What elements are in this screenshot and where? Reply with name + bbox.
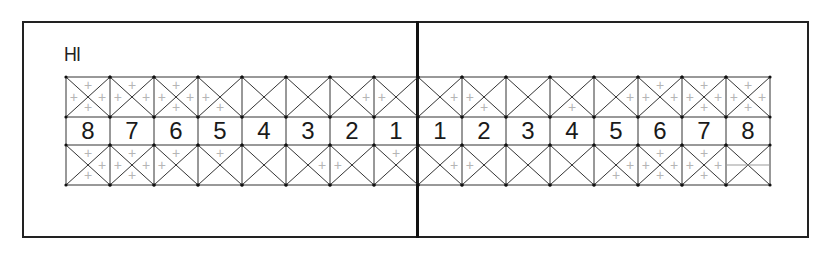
- surface-mark-b: +: [216, 99, 224, 115]
- surface-mark-r: +: [142, 157, 150, 173]
- surface-mark-r: +: [142, 89, 150, 105]
- surface-mark-b: +: [612, 167, 620, 183]
- surface-mark-r: +: [318, 157, 326, 173]
- surface-mark-t: +: [172, 145, 180, 161]
- tooth-left-8[interactable]: +++++++8: [64, 75, 111, 186]
- surface-mark-t: +: [128, 145, 136, 161]
- surface-mark-l: +: [642, 89, 650, 105]
- surface-mark-r: +: [186, 89, 194, 105]
- tooth-number: 4: [565, 117, 578, 144]
- surface-mark-t: +: [700, 77, 708, 93]
- surface-mark-l: +: [158, 89, 166, 105]
- surface-mark-t: +: [172, 77, 180, 93]
- surface-mark-l: +: [466, 157, 474, 173]
- surface-mark-l: +: [114, 89, 122, 105]
- surface-mark-r: +: [98, 89, 106, 105]
- tooth-left-5[interactable]: +++5: [196, 75, 243, 186]
- surface-mark-l: +: [686, 157, 694, 173]
- surface-mark-l: +: [202, 89, 210, 105]
- surface-mark-l: +: [334, 157, 342, 173]
- tooth-left-6[interactable]: ++++++6: [152, 75, 199, 186]
- tooth-left-1[interactable]: ++1: [372, 75, 419, 186]
- surface-mark-t: +: [700, 145, 708, 161]
- surface-mark-b: +: [128, 167, 136, 183]
- surface-mark-t: +: [744, 77, 752, 93]
- tooth-number: 6: [653, 117, 666, 144]
- tooth-number: 7: [125, 117, 138, 144]
- tooth-left-4[interactable]: 4: [240, 75, 287, 186]
- surface-mark-b: +: [480, 99, 488, 115]
- surface-mark-r: +: [450, 89, 458, 105]
- tooth-left-3[interactable]: +3: [284, 75, 331, 186]
- surface-mark-b: +: [656, 167, 664, 183]
- surface-mark-t: +: [128, 77, 136, 93]
- dental-chart-grid: +++++++8+++++++7++++++6+++54+3++2++1++1+…: [0, 0, 840, 258]
- surface-mark-b: +: [172, 99, 180, 115]
- surface-mark-b: +: [568, 99, 576, 115]
- tooth-number: 1: [389, 117, 402, 144]
- tooth-right-6[interactable]: +++++++6: [636, 75, 683, 186]
- surface-mark-r: +: [98, 157, 106, 173]
- surface-mark-l: +: [466, 89, 474, 105]
- surface-mark-r: +: [626, 89, 634, 105]
- tooth-number: 3: [521, 117, 534, 144]
- surface-mark-r: +: [670, 89, 678, 105]
- tooth-left-2[interactable]: ++2: [328, 75, 375, 186]
- tooth-number: 8: [741, 117, 754, 144]
- surface-mark-t: +: [84, 77, 92, 93]
- tooth-right-1[interactable]: ++1: [416, 75, 463, 186]
- surface-mark-l: +: [114, 157, 122, 173]
- tooth-number: 1: [433, 117, 446, 144]
- tooth-left-7[interactable]: +++++++7: [108, 75, 155, 186]
- surface-mark-r: +: [714, 89, 722, 105]
- surface-mark-b: +: [744, 99, 752, 115]
- surface-mark-l: +: [730, 89, 738, 105]
- surface-mark-b: +: [84, 167, 92, 183]
- tooth-number: 2: [477, 117, 490, 144]
- surface-mark-l: +: [158, 157, 166, 173]
- surface-mark-t: +: [656, 77, 664, 93]
- surface-mark-t: +: [656, 145, 664, 161]
- surface-mark-l: +: [686, 89, 694, 105]
- tooth-number: 6: [169, 117, 182, 144]
- surface-mark-r: +: [670, 157, 678, 173]
- tooth-number: 5: [213, 117, 226, 144]
- tooth-right-2[interactable]: +++2: [460, 75, 507, 186]
- tooth-right-8[interactable]: ++++8: [724, 75, 771, 186]
- tooth-number: 4: [257, 117, 270, 144]
- tooth-number: 8: [81, 117, 94, 144]
- surface-mark-r: +: [626, 157, 634, 173]
- surface-mark-r: +: [450, 157, 458, 173]
- tooth-right-4[interactable]: +4: [548, 75, 595, 186]
- surface-mark-b: +: [700, 167, 708, 183]
- surface-mark-t: +: [392, 145, 400, 161]
- surface-mark-l: +: [378, 89, 386, 105]
- tooth-number: 7: [697, 117, 710, 144]
- tooth-number: 5: [609, 117, 622, 144]
- surface-mark-r: +: [758, 89, 766, 105]
- surface-mark-t: +: [216, 145, 224, 161]
- tooth-number: 3: [301, 117, 314, 144]
- surface-mark-l: +: [642, 157, 650, 173]
- surface-mark-r: +: [362, 89, 370, 105]
- surface-mark-t: +: [84, 145, 92, 161]
- tooth-right-3[interactable]: 3: [504, 75, 551, 186]
- surface-mark-l: +: [70, 89, 78, 105]
- surface-mark-b: +: [700, 99, 708, 115]
- surface-mark-b: +: [84, 99, 92, 115]
- tooth-number: 2: [345, 117, 358, 144]
- tooth-right-7[interactable]: ++++++++7: [680, 75, 727, 186]
- surface-mark-r: +: [714, 157, 722, 173]
- tooth-right-5[interactable]: +++5: [592, 75, 639, 186]
